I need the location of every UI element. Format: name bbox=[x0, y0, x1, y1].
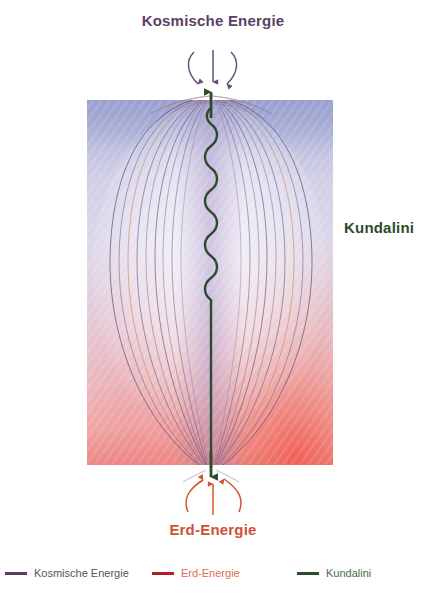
legend-swatch-erd-energie bbox=[152, 572, 174, 575]
cosmic-energy-arrows bbox=[188, 50, 236, 84]
legend-item-kosmische-energie: Kosmische Energie bbox=[5, 563, 129, 583]
legend-label-kosmische-energie: Kosmische Energie bbox=[34, 567, 129, 579]
earth-energy-arrows bbox=[186, 479, 241, 515]
label-kundalini: Kundalini bbox=[344, 219, 414, 236]
cosmic-arrow-left bbox=[188, 52, 198, 84]
legend-item-kundalini: Kundalini bbox=[297, 563, 371, 583]
legend-swatch-kosmische-energie bbox=[5, 572, 27, 575]
earth-arrow-right bbox=[224, 479, 241, 512]
legend-swatch-kundalini bbox=[297, 572, 319, 575]
cosmic-arrow-right bbox=[227, 52, 237, 84]
legend-label-erd-energie: Erd-Energie bbox=[181, 567, 240, 579]
legend-item-erd-energie: Erd-Energie bbox=[152, 563, 240, 583]
aura-diagram bbox=[0, 0, 426, 545]
legend: Kosmische Energie Erd-Energie Kundalini bbox=[0, 563, 426, 583]
label-erd-energie: Erd-Energie bbox=[0, 521, 426, 538]
legend-label-kundalini: Kundalini bbox=[326, 567, 371, 579]
earth-arrow-left bbox=[186, 480, 203, 512]
aura-diagram-svg bbox=[0, 0, 426, 545]
